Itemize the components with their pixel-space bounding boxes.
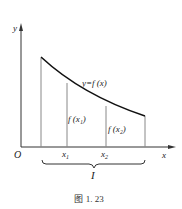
- origin-label: O: [14, 149, 21, 160]
- x-axis-label: x: [161, 150, 166, 160]
- fx1-label: f (x₁): [68, 114, 86, 124]
- x1-label: x1: [61, 149, 69, 160]
- y-axis-label: y: [12, 23, 17, 33]
- figure-caption: 图 1. 23: [74, 194, 104, 204]
- y-axis-arrow-icon: [19, 23, 23, 31]
- decreasing-function-diagram: y=f (x) f (x₁) f (x₂) y O x x1 x2 I 图 1.…: [0, 0, 182, 209]
- x-axis-arrow-icon: [168, 145, 176, 149]
- x2-label: x2: [100, 149, 108, 160]
- curve-label: y=f (x): [81, 78, 107, 88]
- interval-label: I: [90, 169, 96, 181]
- interval-brace: [42, 160, 145, 168]
- fx2-label: f (x₂): [108, 124, 126, 134]
